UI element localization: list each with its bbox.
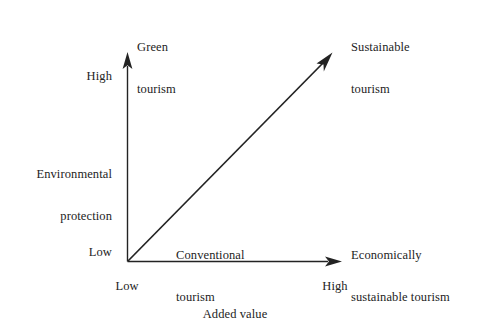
x-axis-high-label: High xyxy=(309,279,361,293)
label-green-tourism-line2: tourism xyxy=(137,82,257,96)
label-sustainable-tourism-line1: Sustainable xyxy=(351,40,476,54)
y-axis-title-line1: Environmental xyxy=(2,167,112,181)
x-axis-low-label: Low xyxy=(101,279,153,293)
y-axis-low-label: Low xyxy=(42,245,112,259)
label-conventional-tourism-line1: Conventional xyxy=(176,248,306,262)
y-axis-title: Environmental protection xyxy=(2,139,112,251)
x-axis-title-line1: Added value xyxy=(176,307,294,321)
y-axis-title-line2: protection xyxy=(2,209,112,223)
label-economically-sustainable-line1: Economically xyxy=(351,248,481,262)
x-axis-title: Added value (per capita) xyxy=(176,279,294,325)
label-economically-sustainable-line2: sustainable tourism xyxy=(351,290,481,304)
diagram-canvas: Green tourism Sustainable tourism High E… xyxy=(0,0,481,325)
label-green-tourism-line1: Green xyxy=(137,40,257,54)
label-sustainable-tourism-line2: tourism xyxy=(351,82,476,96)
label-sustainable-tourism: Sustainable tourism xyxy=(351,12,476,124)
diagonal-arrowhead-icon xyxy=(317,53,333,72)
label-green-tourism: Green tourism xyxy=(137,12,257,124)
y-axis-high-label: High xyxy=(42,69,112,83)
y-axis-group xyxy=(123,52,133,262)
label-economically-sustainable-tourism: Economically sustainable tourism xyxy=(351,220,481,325)
